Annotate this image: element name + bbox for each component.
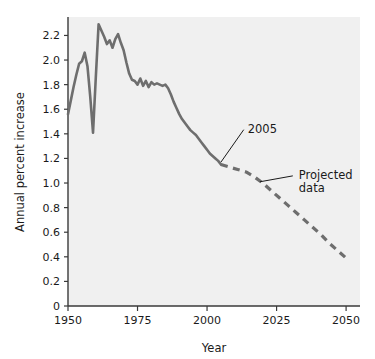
x-axis-tick-label: 2050 — [332, 314, 360, 327]
y-axis-tick-label: 1.0 — [43, 177, 61, 190]
y-axis-title: Annual percent increase — [13, 92, 27, 232]
x-axis-tick-label: 2000 — [193, 314, 221, 327]
y-axis-tick-label: 0.8 — [43, 202, 61, 215]
y-axis-tick-label: 0.6 — [43, 226, 61, 239]
projected-data-annotation-label-line1: Projected — [299, 168, 353, 182]
y-axis-tick-label: 0.2 — [43, 275, 61, 288]
y-axis-tick-label: 2.0 — [43, 54, 61, 67]
y-axis-tick-label: 1.2 — [43, 152, 61, 165]
x-axis-tick-label: 1950 — [54, 314, 82, 327]
chart-figure: 00.20.40.60.81.01.21.41.61.82.02.2 19501… — [0, 0, 375, 359]
annual-percent-increase-line-chart: 00.20.40.60.81.01.21.41.61.82.02.2 19501… — [0, 0, 375, 359]
y-axis-tick-label: 1.8 — [43, 79, 61, 92]
y-axis-tick-label: 1.4 — [43, 128, 61, 141]
y-axis-tick-label: 0 — [53, 300, 60, 313]
y-axis-tick-label: 0.4 — [43, 251, 61, 264]
x-axis-tick-label: 2025 — [263, 314, 291, 327]
y-axis-tick-label: 1.6 — [43, 103, 61, 116]
y-axis-tick-label: 2.2 — [43, 29, 61, 42]
x-axis-tick-label: 1975 — [124, 314, 152, 327]
x-axis-title: Year — [201, 341, 227, 355]
year-2005-annotation-label: 2005 — [248, 122, 277, 136]
projected-data-annotation-label-line2: data — [299, 181, 325, 195]
plot-area-background — [68, 17, 360, 306]
